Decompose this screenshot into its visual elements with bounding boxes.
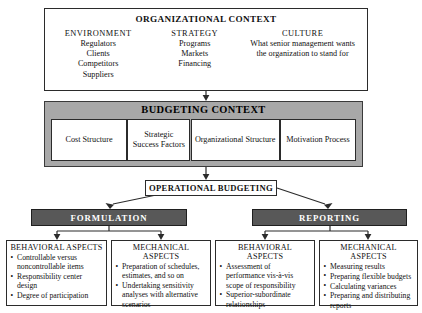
org-item: Financing: [151, 59, 238, 69]
org-item: Competitors: [45, 59, 151, 69]
org-column-heading: CULTURE: [238, 29, 367, 38]
leaf-title: MECHANICAL ASPECTS: [323, 243, 414, 261]
org-item: Suppliers: [45, 70, 151, 80]
organizational-context-box: ORGANIZATIONAL CONTEXT ENVIRONMENT Regul…: [44, 8, 368, 91]
leaf-list-item: Preparing flexible budgets: [323, 272, 414, 281]
org-item: Programs: [151, 39, 238, 49]
organizational-context-title: ORGANIZATIONAL CONTEXT: [45, 14, 367, 24]
leaf-box-reporting-behavioral: BEHAVIORAL ASPECTS Assessment of perform…: [215, 240, 315, 306]
leaf-box-formulation-behavioral: BEHAVIORAL ASPECTS Controllable versus n…: [6, 240, 107, 306]
leaf-title: MECHANICAL ASPECTS: [115, 243, 207, 261]
leaf-list-item: Degree of participation: [10, 291, 103, 300]
leaf-title: BEHAVIORAL ASPECTS: [10, 243, 103, 252]
leaf-list-item: Controllable versus noncontrollable item…: [10, 253, 103, 272]
budgeting-context-subboxes: Cost Structure Strategic Success Factors…: [51, 119, 356, 161]
organizational-context-columns: ENVIRONMENT Regulators Clients Competito…: [45, 29, 367, 80]
leaf-title: BEHAVIORAL ASPECTS: [219, 243, 311, 261]
leaf-box-reporting-mechanical: MECHANICAL ASPECTS Measuring results Pre…: [319, 240, 418, 306]
leaf-list-item: Preparing and distributing reports: [323, 291, 414, 310]
budgeting-subbox-cost-structure: Cost Structure: [51, 119, 127, 161]
leaf-list-item: Undertaking sensitivity analyses with al…: [115, 281, 207, 309]
org-item: Markets: [151, 49, 238, 59]
leaf-list-item: Assessment of performance vis-à-vis scop…: [219, 262, 311, 290]
leaf-list-item: Calculating variances: [323, 282, 414, 291]
diagram-canvas: ORGANIZATIONAL CONTEXT ENVIRONMENT Regul…: [0, 0, 422, 313]
leaf-list: Preparation of schedules, estimates, and…: [115, 262, 207, 309]
budgeting-subbox-strategic-success-factors: Strategic Success Factors: [127, 119, 190, 161]
leaf-list: Assessment of performance vis-à-vis scop…: [219, 262, 311, 309]
leaf-list-item: Measuring results: [323, 262, 414, 271]
leaf-list-item: Superior-subordinate relationships: [219, 290, 311, 309]
org-column-strategy: STRATEGY Programs Markets Financing: [151, 29, 238, 80]
budgeting-context-box: BUDGETING CONTEXT Cost Structure Strateg…: [44, 101, 363, 167]
branch-bar-reporting: REPORTING: [252, 209, 407, 226]
budgeting-subbox-organizational-structure: Organizational Structure: [191, 119, 280, 161]
leaf-box-formulation-mechanical: MECHANICAL ASPECTS Preparation of schedu…: [111, 240, 211, 306]
leaf-list-item: Responsibility center design: [10, 272, 103, 291]
org-item: Regulators: [45, 39, 151, 49]
org-column-culture: CULTURE What senior management wants the…: [238, 29, 367, 80]
org-culture-text: What senior management wants the organiz…: [238, 39, 367, 59]
org-column-heading: STRATEGY: [151, 29, 238, 38]
operational-budgeting-box: OPERATIONAL BUDGETING: [145, 180, 277, 196]
org-column-heading: ENVIRONMENT: [45, 29, 151, 38]
leaf-list: Measuring results Preparing flexible bud…: [323, 262, 414, 310]
leaf-list: Controllable versus noncontrollable item…: [10, 253, 103, 300]
budgeting-context-title: BUDGETING CONTEXT: [45, 104, 362, 115]
org-item: Clients: [45, 49, 151, 59]
leaf-list-item: Preparation of schedules, estimates, and…: [115, 262, 207, 281]
org-column-environment: ENVIRONMENT Regulators Clients Competito…: [45, 29, 151, 80]
budgeting-subbox-motivation-process: Motivation Process: [280, 119, 356, 161]
branch-bar-formulation: FORMULATION: [31, 209, 187, 226]
